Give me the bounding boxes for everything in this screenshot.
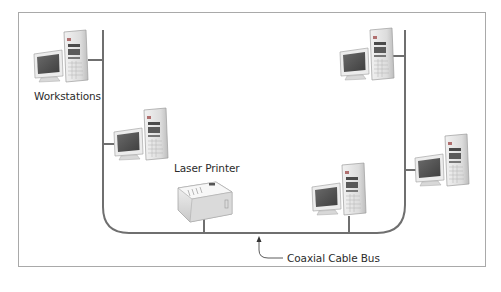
workstation-3	[312, 163, 366, 215]
workstation-1	[34, 30, 88, 82]
laser-printer-icon	[178, 182, 232, 222]
network-diagram	[0, 0, 501, 292]
workstation-5	[415, 134, 469, 186]
coaxial-cable-bus-label: Coaxial Cable Bus	[287, 252, 380, 264]
laser-printer-label: Laser Printer	[174, 162, 240, 174]
workstations-label: Workstations	[34, 90, 101, 102]
workstation-4	[340, 28, 394, 80]
bus-pointer-arrow	[257, 236, 284, 258]
workstation-2	[114, 108, 168, 160]
